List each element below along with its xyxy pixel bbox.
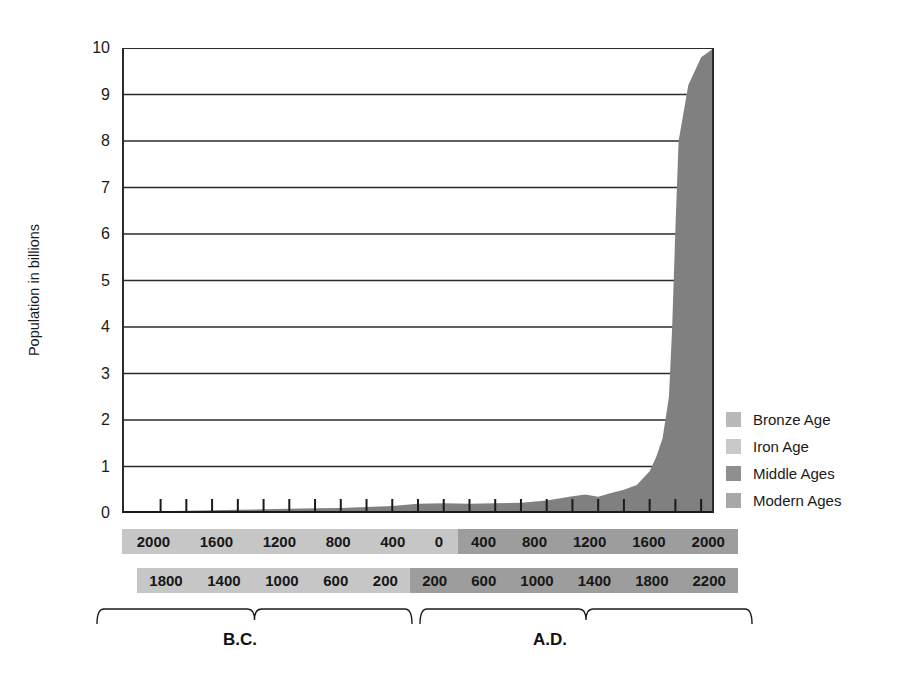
x-band-label: 600 — [471, 572, 496, 589]
x-band-label: 200 — [422, 572, 447, 589]
band-bottom-bc-segment: 180014001000600200 — [137, 568, 410, 593]
legend-swatch-icon — [726, 466, 741, 481]
x-band-label: 1400 — [578, 572, 611, 589]
legend-label: Modern Ages — [753, 492, 841, 509]
x-band-label: 200 — [373, 572, 398, 589]
legend-label: Iron Age — [753, 438, 809, 455]
legend: Bronze AgeIron AgeMiddle AgesModern Ages — [726, 406, 906, 514]
y-tick-label-6: 6 — [70, 226, 110, 242]
y-tick-label-9: 9 — [70, 87, 110, 103]
legend-label: Bronze Age — [753, 411, 831, 428]
legend-item-bronze-age[interactable]: Bronze Age — [726, 406, 906, 433]
x-band-label: 800 — [326, 533, 351, 550]
band-bottom-ad-segment: 2006001000140018002200 — [410, 568, 738, 593]
x-band-label: 1600 — [200, 533, 233, 550]
band-top-ad-segment: 400800120016002000 — [458, 529, 738, 554]
y-axis-title: Population in billions — [26, 160, 42, 420]
x-axis-band-offset: 1800140010006002002006001000140018002200 — [137, 568, 738, 593]
x-band-label: 1600 — [632, 533, 665, 550]
brace-bc — [97, 609, 412, 624]
legend-label: Middle Ages — [753, 465, 835, 482]
y-tick-label-2: 2 — [70, 412, 110, 428]
x-band-label: 1800 — [149, 572, 182, 589]
x-band-label: 800 — [522, 533, 547, 550]
y-tick-label-1: 1 — [70, 459, 110, 475]
legend-item-iron-age[interactable]: Iron Age — [726, 433, 906, 460]
y-tick-label-7: 7 — [70, 180, 110, 196]
x-band-label: 1400 — [207, 572, 240, 589]
y-tick-label-3: 3 — [70, 366, 110, 382]
y-axis-tick-labels: 109876543210 — [62, 48, 110, 513]
x-band-label: 600 — [323, 572, 348, 589]
x-band-label: 400 — [471, 533, 496, 550]
y-tick-label-0: 0 — [70, 505, 110, 521]
x-band-label: 400 — [380, 533, 405, 550]
era-label-ad: A.D. — [490, 630, 610, 650]
x-band-label: 1200 — [573, 533, 606, 550]
x-band-label: 2000 — [692, 533, 725, 550]
legend-swatch-icon — [726, 493, 741, 508]
y-tick-label-5: 5 — [70, 273, 110, 289]
legend-swatch-icon — [726, 412, 741, 427]
plot-area — [122, 48, 714, 513]
x-band-label-zero: 0 — [435, 533, 443, 550]
x-band-label: 1000 — [520, 572, 553, 589]
y-tick-label-4: 4 — [70, 319, 110, 335]
era-braces — [80, 600, 760, 632]
x-band-label: 2000 — [137, 533, 170, 550]
era-label-bc: B.C. — [180, 630, 300, 650]
legend-swatch-icon — [726, 439, 741, 454]
x-axis-band-millennia: 2000160012008004000400800120016002000 — [122, 529, 738, 554]
area-series-svg — [122, 48, 714, 513]
population-chart: Population in billions 109876543210 2000… — [0, 0, 911, 683]
legend-item-modern-ages[interactable]: Modern Ages — [726, 487, 906, 514]
x-band-label: 2200 — [693, 572, 726, 589]
legend-item-middle-ages[interactable]: Middle Ages — [726, 460, 906, 487]
x-band-label: 1200 — [263, 533, 296, 550]
x-band-label: 1000 — [265, 572, 298, 589]
x-band-label: 1800 — [635, 572, 668, 589]
brace-ad — [420, 609, 752, 624]
band-top-bc-segment: 2000160012008004000 — [122, 529, 458, 554]
y-tick-label-8: 8 — [70, 133, 110, 149]
y-tick-label-10: 10 — [70, 40, 110, 56]
